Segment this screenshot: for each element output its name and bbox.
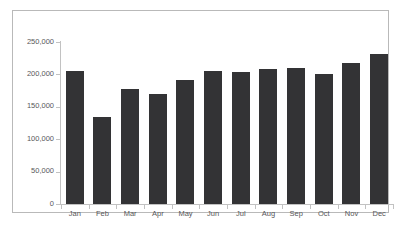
bar[interactable] bbox=[259, 69, 277, 204]
bar-slot bbox=[199, 42, 227, 204]
y-axis-tick-label: 250,000 bbox=[10, 38, 54, 46]
y-axis-tick-label-wrap: 150,000 bbox=[13, 102, 54, 112]
y-axis-tick-label-wrap: 100,000 bbox=[13, 135, 54, 145]
x-axis-tick bbox=[282, 205, 283, 209]
bar-slot bbox=[61, 42, 89, 204]
chart-frame: 050,000100,000150,000200,000250,000 JanF… bbox=[12, 10, 389, 213]
x-axis-tick bbox=[393, 205, 394, 209]
x-axis-tick-label: Feb bbox=[89, 210, 117, 218]
y-axis-tick-label-wrap: 50,000 bbox=[13, 167, 54, 177]
bar[interactable] bbox=[204, 71, 222, 204]
bar[interactable] bbox=[121, 89, 139, 204]
bar-slot bbox=[116, 42, 144, 204]
y-axis-tick-label-wrap: 0 bbox=[13, 200, 54, 210]
y-axis-tick-label-wrap: 250,000 bbox=[13, 38, 54, 48]
x-axis-tick-label: Jan bbox=[61, 210, 89, 218]
bar-slot bbox=[310, 42, 338, 204]
x-axis-tick-label: Apr bbox=[144, 210, 172, 218]
bar[interactable] bbox=[66, 71, 84, 204]
bar-slot bbox=[172, 42, 200, 204]
x-axis-tick bbox=[227, 205, 228, 209]
bar-slot bbox=[282, 42, 310, 204]
y-axis-tick-label: 100,000 bbox=[10, 135, 54, 143]
bar-series bbox=[61, 42, 393, 204]
bar[interactable] bbox=[342, 63, 360, 204]
bar[interactable] bbox=[232, 72, 250, 204]
bar-slot bbox=[227, 42, 255, 204]
x-axis-tick bbox=[172, 205, 173, 209]
x-axis-tick bbox=[338, 205, 339, 209]
x-axis-tick-label: Mar bbox=[116, 210, 144, 218]
x-axis-tick-label: Jul bbox=[227, 210, 255, 218]
x-axis-tick-label: Aug bbox=[255, 210, 283, 218]
x-axis-tick bbox=[144, 205, 145, 209]
x-axis-tick bbox=[199, 205, 200, 209]
bar[interactable] bbox=[287, 68, 305, 204]
bar-slot bbox=[365, 42, 393, 204]
x-axis-tick bbox=[310, 205, 311, 209]
x-axis-tick bbox=[61, 205, 62, 209]
bar-chart-figure: 050,000100,000150,000200,000250,000 JanF… bbox=[0, 0, 402, 225]
x-axis-tick-label: Jun bbox=[199, 210, 227, 218]
y-axis-tick-label: 200,000 bbox=[10, 70, 54, 78]
x-axis-tick bbox=[89, 205, 90, 209]
y-axis-tick-label: 150,000 bbox=[10, 102, 54, 110]
bar[interactable] bbox=[315, 74, 333, 204]
y-axis-tick-label: 0 bbox=[10, 200, 54, 208]
bar-slot bbox=[255, 42, 283, 204]
bar-slot bbox=[89, 42, 117, 204]
bar[interactable] bbox=[93, 117, 111, 204]
bar-slot bbox=[144, 42, 172, 204]
x-axis-tick-label: Dec bbox=[365, 210, 393, 218]
x-axis-tick bbox=[255, 205, 256, 209]
x-axis-tick bbox=[116, 205, 117, 209]
bar[interactable] bbox=[149, 94, 167, 204]
x-axis-tick-label: Nov bbox=[338, 210, 366, 218]
bar[interactable] bbox=[176, 80, 194, 204]
y-axis-tick-label-wrap: 200,000 bbox=[13, 70, 54, 80]
bar[interactable] bbox=[370, 54, 388, 204]
x-axis-tick-label: May bbox=[172, 210, 200, 218]
x-axis-tick-label: Oct bbox=[310, 210, 338, 218]
bar-slot bbox=[338, 42, 366, 204]
y-axis-tick-label: 50,000 bbox=[10, 167, 54, 175]
x-axis-tick bbox=[365, 205, 366, 209]
x-axis-tick-label: Sep bbox=[282, 210, 310, 218]
